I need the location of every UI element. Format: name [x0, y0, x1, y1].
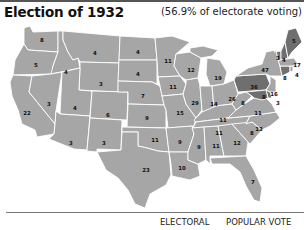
label-me: 5	[292, 38, 296, 44]
label-ut: 4	[73, 105, 77, 111]
label-ma: 17	[293, 62, 301, 68]
label-in: 14	[210, 101, 218, 107]
label-wv: 8	[241, 100, 245, 106]
label-ar: 9	[178, 139, 182, 145]
label-wa: 8	[40, 37, 44, 43]
label-wi: 12	[187, 67, 195, 73]
label-ia: 11	[169, 84, 177, 90]
legend-divider	[6, 212, 304, 213]
state-mt[interactable]	[63, 31, 120, 63]
label-mi: 19	[214, 75, 222, 81]
label-ms: 9	[197, 144, 201, 150]
label-tn: 11	[215, 130, 223, 136]
label-ri: 4	[295, 72, 299, 78]
legend-electoral-header: ELECTORAL	[160, 217, 209, 227]
label-ca: 22	[23, 110, 31, 116]
label-va: 11	[254, 110, 262, 116]
label-ok: 11	[151, 137, 159, 143]
label-la: 10	[178, 165, 186, 171]
label-vt: 3	[276, 55, 280, 61]
label-fl: 7	[251, 179, 255, 185]
label-tx: 23	[142, 167, 150, 173]
label-or: 5	[34, 62, 38, 68]
label-de: 3	[276, 100, 280, 106]
label-sc: 8	[250, 130, 254, 136]
label-nj: 16	[270, 91, 278, 97]
label-pa: 36	[250, 84, 258, 90]
label-co: 6	[106, 112, 110, 118]
legend-popular-header: POPULAR VOTE	[226, 217, 291, 227]
label-id: 4	[64, 69, 68, 75]
label-md: 8	[262, 94, 266, 100]
state-nm[interactable]	[87, 118, 122, 152]
state-wy[interactable]	[79, 62, 119, 92]
label-ct: 8	[283, 75, 287, 81]
state-ny[interactable]	[236, 50, 282, 76]
us-electoral-map: 8 5 22 4 3 4 3 4 3 6 3 4 4 7 9 11 23 11 …	[0, 0, 304, 230]
label-nd: 4	[136, 49, 140, 55]
label-nv: 3	[47, 101, 51, 107]
label-wy: 3	[99, 81, 103, 87]
label-oh: 26	[228, 96, 236, 102]
label-ga: 12	[233, 140, 241, 146]
label-mn: 11	[164, 58, 172, 64]
label-nh: 4	[282, 57, 286, 63]
label-ks: 9	[145, 115, 149, 121]
label-mt: 4	[93, 50, 97, 56]
label-ny: 47	[261, 67, 269, 73]
label-sd: 4	[136, 71, 140, 77]
label-ne: 7	[141, 93, 145, 99]
label-ky: 11	[219, 117, 227, 123]
label-mo: 15	[176, 110, 184, 116]
label-al: 11	[212, 143, 220, 149]
label-nm: 3	[102, 140, 106, 146]
state-mi[interactable]	[206, 58, 227, 86]
label-il: 29	[191, 100, 199, 106]
label-nc: 13	[255, 126, 263, 132]
state-nd[interactable]	[119, 36, 157, 60]
label-az: 3	[69, 140, 73, 146]
